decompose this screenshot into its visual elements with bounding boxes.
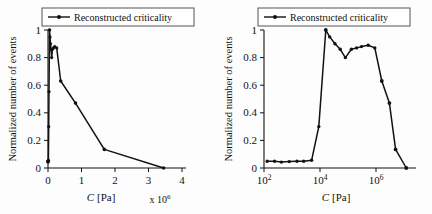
left-legend-label: Reconstructed criticality — [74, 12, 172, 23]
svg-text:C[Pa]: C[Pa] — [87, 191, 116, 203]
right-ytick-4: 0.8 — [243, 51, 257, 63]
right-ytick-3: 0.6 — [243, 79, 257, 91]
right-plot-svg: 0 0.2 0.4 0.6 0.8 1 102 104 — [216, 0, 432, 214]
right-legend[interactable]: Reconstructed criticality — [258, 8, 410, 26]
left-xlabel-unit: [Pa] — [97, 191, 115, 203]
left-legend-marker-icon — [57, 15, 61, 19]
right-ytick-5: 1 — [252, 24, 258, 36]
right-x-axis-title: C[Pa] — [322, 191, 351, 203]
left-xlabel-symbol: C — [87, 191, 95, 203]
right-ytick-1: 0.2 — [243, 134, 257, 146]
right-xtick-exp-1: 4 — [324, 173, 328, 182]
svg-text:104: 104 — [313, 173, 328, 186]
right-data-markers — [266, 28, 409, 170]
right-x-ticks — [264, 168, 376, 172]
left-ytick-1: 0.2 — [27, 134, 41, 146]
left-xtick-1: 1 — [79, 174, 85, 186]
left-data-markers — [46, 28, 165, 170]
left-mult-base: x 10 — [150, 194, 168, 205]
svg-text:102: 102 — [257, 173, 272, 186]
right-xtick-exp-2: 6 — [380, 173, 384, 182]
svg-text:C[Pa]: C[Pa] — [322, 191, 351, 203]
left-ytick-4: 0.8 — [27, 51, 41, 63]
right-legend-label: Reconstructed criticality — [290, 12, 388, 23]
left-y-ticks — [44, 30, 48, 168]
right-xtick-base-2: 10 — [369, 174, 381, 186]
right-xtick-base-1: 10 — [313, 174, 325, 186]
left-ytick-2: 0.4 — [27, 106, 41, 118]
left-axis-multiplier: x 106 — [150, 193, 172, 205]
chart-panel-left: 0 0.2 0.4 0.6 0.8 1 0 1 2 3 4 — [0, 0, 216, 214]
right-xlabel-unit: [Pa] — [332, 191, 350, 203]
left-ytick-5: 1 — [36, 24, 42, 36]
right-y-ticks — [260, 30, 264, 168]
left-plot-svg: 0 0.2 0.4 0.6 0.8 1 0 1 2 3 4 — [0, 0, 216, 214]
right-legend-marker-icon — [273, 15, 277, 19]
left-x-axis-title: C[Pa] — [87, 191, 116, 203]
chart-panel-right: 0 0.2 0.4 0.6 0.8 1 102 104 — [216, 0, 432, 214]
left-data-line — [48, 30, 164, 168]
right-ytick-2: 0.4 — [243, 106, 257, 118]
left-ytick-3: 0.6 — [27, 79, 41, 91]
left-legend[interactable]: Reconstructed criticality — [42, 8, 194, 26]
right-y-tick-labels: 0 0.2 0.4 0.6 0.8 1 — [243, 24, 257, 174]
left-y-tick-labels: 0 0.2 0.4 0.6 0.8 1 — [27, 24, 41, 174]
left-xtick-4: 4 — [179, 174, 185, 186]
right-xtick-exp-0: 2 — [268, 173, 272, 182]
figure-container: 0 0.2 0.4 0.6 0.8 1 0 1 2 3 4 — [0, 0, 432, 214]
right-ytick-0: 0 — [252, 162, 258, 174]
left-xtick-0: 0 — [45, 174, 51, 186]
left-xtick-2: 2 — [112, 174, 118, 186]
left-mult-exp: 6 — [167, 193, 171, 201]
left-xtick-3: 3 — [146, 174, 152, 186]
right-x-tick-labels: 102 104 106 — [257, 173, 384, 186]
right-y-axis-title: Normalized number of events — [223, 36, 234, 161]
left-x-ticks — [48, 168, 182, 172]
left-axes — [48, 30, 186, 168]
left-x-tick-labels: 0 1 2 3 4 — [45, 174, 185, 186]
right-data-line — [267, 30, 406, 168]
right-xtick-base-0: 10 — [257, 174, 269, 186]
svg-text:x 106: x 106 — [150, 193, 172, 205]
svg-text:106: 106 — [369, 173, 384, 186]
left-y-axis-title: Normalized number of events — [7, 36, 18, 161]
left-ytick-0: 0 — [36, 162, 42, 174]
right-xlabel-symbol: C — [322, 191, 330, 203]
